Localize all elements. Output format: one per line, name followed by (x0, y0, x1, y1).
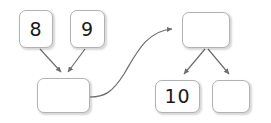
node-8: 8 (19, 10, 53, 48)
edge-9-to-left-root (68, 49, 85, 72)
edge-right-root-to-empty (208, 49, 229, 74)
diagram-canvas: 8 9 10 (0, 0, 271, 123)
node-right-root (182, 12, 230, 48)
edge-right-root-to-10 (184, 49, 205, 74)
edge-8-to-left-root (40, 49, 61, 72)
node-label: 10 (164, 87, 190, 106)
node-label: 8 (29, 20, 42, 39)
node-10: 10 (155, 80, 200, 113)
node-label: 9 (81, 20, 94, 39)
node-empty (212, 80, 250, 113)
node-left-root (37, 78, 90, 113)
node-9: 9 (70, 10, 105, 48)
